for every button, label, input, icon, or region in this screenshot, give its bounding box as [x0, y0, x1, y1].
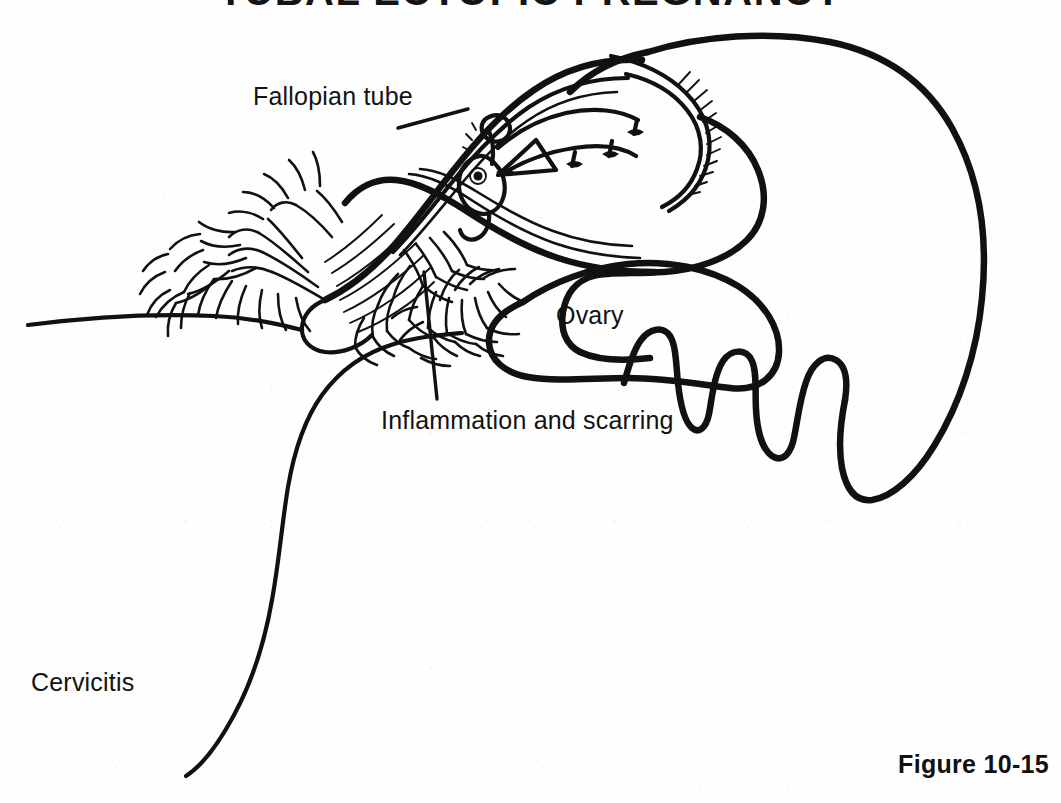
- cervix-vaginal-wall: [186, 333, 462, 776]
- label-cervicitis: Cervicitis: [31, 668, 134, 697]
- label-fallopian-tube: Fallopian tube: [253, 82, 413, 111]
- ovary: [489, 263, 779, 389]
- inflammation-scarring: [355, 232, 523, 366]
- figure-caption: Figure 10-15: [898, 750, 1049, 779]
- embryo-eye: [474, 172, 483, 181]
- label-inflammation-and-scarring: Inflammation and scarring: [381, 406, 674, 435]
- figure-page: TUBAL ECTOPIC PREGNANCY: [0, 0, 1061, 803]
- label-ovary: Ovary: [556, 301, 624, 330]
- leader-line-fallopian-tube: [398, 109, 468, 128]
- anatomical-line-drawing: [0, 0, 1061, 803]
